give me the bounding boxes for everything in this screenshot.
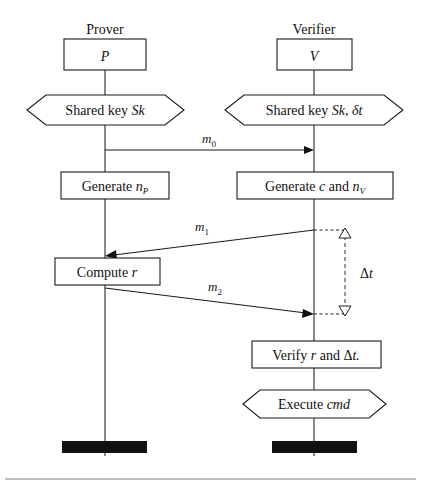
message-m2-label-subscript: 2 bbox=[217, 287, 222, 297]
actor-box-prover-label: P bbox=[100, 49, 110, 64]
generate-cnv-italic-2: n bbox=[352, 179, 359, 194]
box-verifier-verify-label: Verify r and Δt. bbox=[272, 348, 360, 363]
sequence-diagram-figure: Prover Verifier P V Shared key Sk Shared… bbox=[0, 0, 421, 486]
delta-t-label-var: t bbox=[369, 266, 374, 281]
verify-normal-2: and Δ bbox=[316, 348, 352, 363]
generate-np-subscript: P bbox=[142, 186, 149, 196]
message-m1-label-subscript: 1 bbox=[204, 227, 209, 237]
generate-cnv-normal-2: and bbox=[325, 179, 352, 194]
actor-box-verifier-label: V bbox=[310, 49, 320, 64]
verify-italic-2: t. bbox=[352, 348, 359, 363]
shared-key-verifier-italic: Sk, δt bbox=[332, 103, 364, 118]
box-prover-compute-r-label: Compute r bbox=[77, 265, 138, 280]
delta-t-label: Δt bbox=[360, 266, 374, 281]
box-prover-generate-np-label: Generate nP bbox=[82, 179, 149, 196]
generate-np-italic: n bbox=[136, 179, 143, 194]
message-m2-arrowhead bbox=[302, 309, 314, 318]
message-m0-arrowhead bbox=[304, 146, 314, 154]
shared-key-prover-italic: Sk bbox=[131, 103, 145, 118]
delta-t-label-delta: Δ bbox=[360, 266, 369, 281]
diagram-canvas: Prover Verifier P V Shared key Sk Shared… bbox=[0, 0, 421, 486]
message-m0-label: m0 bbox=[202, 131, 216, 149]
generate-cnv-normal-1: Generate bbox=[265, 179, 319, 194]
message-m1-label-base: m bbox=[195, 219, 204, 234]
delta-t-arrowhead-down-icon bbox=[339, 306, 351, 316]
message-m2-line bbox=[105, 288, 306, 313]
terminator-verifier bbox=[272, 441, 357, 453]
role-title-verifier: Verifier bbox=[293, 22, 336, 37]
role-title-prover: Prover bbox=[86, 22, 124, 37]
message-m2-label: m2 bbox=[208, 279, 222, 297]
execute-cmd-italic: cmd bbox=[327, 397, 351, 412]
compute-r-italic: r bbox=[132, 265, 138, 280]
hexagon-prover-shared-key-label: Shared key Sk bbox=[65, 103, 145, 118]
message-m2-label-base: m bbox=[208, 279, 217, 294]
message-m1-label: m1 bbox=[195, 219, 209, 237]
shared-key-verifier-normal: Shared key bbox=[266, 103, 332, 118]
message-m1-line bbox=[114, 230, 314, 255]
hexagon-verifier-shared-key-label: Shared key Sk, δt bbox=[266, 103, 364, 118]
execute-cmd-normal: Execute bbox=[278, 397, 327, 412]
compute-r-normal: Compute bbox=[77, 265, 132, 280]
message-m0-label-subscript: 0 bbox=[211, 139, 216, 149]
box-verifier-generate-c-nv-label: Generate c and nV bbox=[265, 179, 366, 196]
terminator-prover bbox=[62, 441, 147, 453]
hexagon-verifier-execute-cmd-label: Execute cmd bbox=[278, 397, 351, 412]
message-m0-label-base: m bbox=[202, 131, 211, 146]
delta-t-arrowhead-up-icon bbox=[339, 228, 351, 238]
verify-normal-1: Verify bbox=[272, 348, 311, 363]
shared-key-prover-normal: Shared key bbox=[65, 103, 131, 118]
generate-np-normal: Generate bbox=[82, 179, 136, 194]
